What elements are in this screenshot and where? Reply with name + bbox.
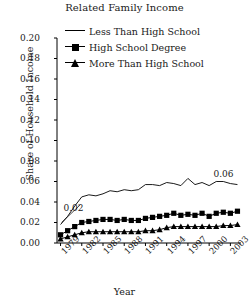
chart-container: Related Family Income Less Than High Sch… [0, 0, 249, 303]
plot-area [0, 0, 249, 303]
